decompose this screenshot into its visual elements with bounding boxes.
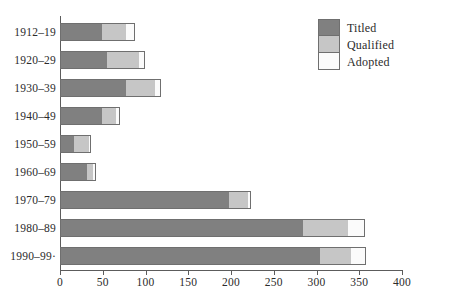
legend-label-adopted: Adopted (347, 55, 390, 69)
bar-segment-qualified (102, 23, 128, 41)
bar-segment-qualified (303, 219, 349, 237)
bar-segment-titled (60, 247, 321, 265)
x-axis-tick (359, 270, 360, 275)
x-axis-tick-label: 50 (83, 276, 123, 289)
bar-row (60, 247, 366, 265)
bar-segment-adopted (139, 51, 145, 69)
bar-segment-titled (60, 163, 88, 181)
legend-swatch-titled-icon (318, 19, 340, 36)
bar-row (60, 191, 251, 209)
legend-item-titled: Titled (318, 19, 438, 36)
legend-item-qualified: Qualified (318, 36, 438, 53)
bar-segment-qualified (320, 247, 352, 265)
bar-row (60, 79, 161, 97)
stacked-bar-chart: 1912–191920–291930–391940–491950–591960–… (0, 0, 450, 304)
bar-segment-adopted (89, 135, 92, 153)
bar-segment-titled (60, 79, 127, 97)
legend-swatch-adopted-icon (318, 53, 340, 70)
legend-label-titled: Titled (347, 21, 376, 35)
chart-legend: Titled Qualified Adopted (318, 19, 438, 70)
x-axis-tick-label: 250 (254, 276, 294, 289)
bar-segment-titled (60, 51, 108, 69)
y-axis-label: 1912–19 (2, 26, 56, 38)
bar-segment-titled (60, 191, 230, 209)
bar-segment-titled (60, 135, 75, 153)
legend-swatch-qualified-icon (318, 36, 340, 53)
y-axis-label: 1930–39 (2, 82, 56, 94)
bar-segment-qualified (107, 51, 140, 69)
bar-segment-qualified (126, 79, 156, 97)
bar-segment-titled (60, 23, 103, 41)
legend-item-adopted: Adopted (318, 53, 438, 70)
x-axis-tick (60, 270, 61, 275)
x-axis-tick (146, 270, 147, 275)
x-axis-tick (231, 270, 232, 275)
y-axis-category-labels: 1912–191920–291930–391940–491950–591960–… (0, 18, 56, 270)
bar-segment-adopted (93, 163, 96, 181)
y-axis-label: 1920–29 (2, 54, 56, 66)
bar-row (60, 107, 120, 125)
y-axis-label: 1990–99· (2, 250, 56, 262)
legend-label-qualified: Qualified (347, 38, 394, 52)
x-axis-tick-label: 150 (168, 276, 208, 289)
y-axis-label: 1960–69 (2, 166, 56, 178)
x-axis-tick (274, 270, 275, 275)
x-axis-tick (317, 270, 318, 275)
bar-segment-adopted (348, 219, 365, 237)
bar-row (60, 23, 135, 41)
bar-segment-adopted (351, 247, 366, 265)
bar-segment-adopted (155, 79, 162, 97)
x-axis-tick-label: 400 (382, 276, 422, 289)
bar-segment-adopted (126, 23, 135, 41)
x-axis-tick-label: 100 (126, 276, 166, 289)
bar-segment-qualified (102, 107, 117, 125)
y-axis-label: 1970–79 (2, 194, 56, 206)
bar-segment-titled (60, 219, 304, 237)
bar-segment-titled (60, 107, 103, 125)
bar-segment-adopted (248, 191, 251, 209)
x-axis-tick (402, 270, 403, 275)
bar-row (60, 135, 91, 153)
bar-row (60, 163, 96, 181)
bar-segment-qualified (229, 191, 249, 209)
x-axis-tick (188, 270, 189, 275)
x-axis-tick-label: 0 (40, 276, 80, 289)
y-axis-label: 1950–59 (2, 138, 56, 150)
y-axis-label: 1940–49 (2, 110, 56, 122)
y-axis-label: 1980–89 (2, 222, 56, 234)
x-axis-tick-label: 200 (211, 276, 251, 289)
bar-segment-qualified (74, 135, 89, 153)
x-axis-tick-label: 300 (297, 276, 337, 289)
x-axis-tick-label: 350 (339, 276, 379, 289)
bar-row (60, 219, 365, 237)
bar-segment-adopted (116, 107, 120, 125)
bar-row (60, 51, 145, 69)
x-axis-tick (103, 270, 104, 275)
